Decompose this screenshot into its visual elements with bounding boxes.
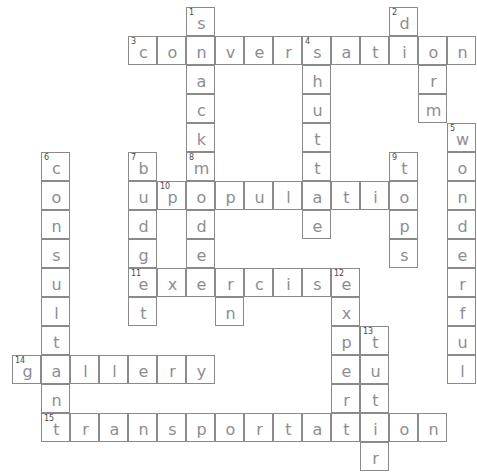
crossword-cell[interactable]: y bbox=[186, 355, 215, 384]
crossword-cell[interactable]: e bbox=[186, 268, 215, 297]
crossword-cell[interactable]: 2d bbox=[389, 7, 418, 36]
crossword-cell[interactable]: e bbox=[302, 210, 331, 239]
crossword-cell[interactable]: r bbox=[418, 65, 447, 94]
crossword-cell[interactable]: u bbox=[41, 268, 70, 297]
crossword-cell[interactable]: 14g bbox=[12, 355, 41, 384]
crossword-cell[interactable]: o bbox=[389, 413, 418, 442]
crossword-cell[interactable]: l bbox=[70, 355, 99, 384]
crossword-cell[interactable]: 6c bbox=[41, 152, 70, 181]
crossword-cell[interactable]: i bbox=[360, 413, 389, 442]
crossword-cell[interactable]: d bbox=[447, 210, 476, 239]
crossword-cell[interactable]: r bbox=[157, 355, 186, 384]
crossword-cell[interactable]: e bbox=[244, 36, 273, 65]
crossword-cell[interactable]: a bbox=[186, 65, 215, 94]
crossword-cell[interactable]: t bbox=[302, 152, 331, 181]
crossword-cell[interactable]: v bbox=[215, 36, 244, 65]
crossword-cell[interactable]: n bbox=[418, 413, 447, 442]
crossword-cell[interactable]: x bbox=[331, 297, 360, 326]
crossword-cell[interactable]: a bbox=[331, 36, 360, 65]
crossword-cell[interactable]: i bbox=[389, 36, 418, 65]
crossword-cell[interactable]: 8m bbox=[186, 152, 215, 181]
crossword-cell[interactable]: d bbox=[128, 210, 157, 239]
crossword-cell[interactable]: t bbox=[331, 181, 360, 210]
crossword-cell[interactable]: o bbox=[41, 181, 70, 210]
crossword-cell[interactable]: r bbox=[244, 413, 273, 442]
crossword-cell[interactable]: r bbox=[70, 413, 99, 442]
crossword-cell[interactable]: o bbox=[215, 413, 244, 442]
crossword-cell[interactable]: t bbox=[41, 326, 70, 355]
crossword-cell[interactable]: o bbox=[157, 36, 186, 65]
crossword-cell[interactable]: i bbox=[360, 181, 389, 210]
crossword-cell[interactable]: r bbox=[331, 384, 360, 413]
crossword-cell[interactable]: p bbox=[331, 326, 360, 355]
crossword-cell[interactable]: n bbox=[447, 181, 476, 210]
crossword-cell[interactable]: 10p bbox=[157, 181, 186, 210]
crossword-cell[interactable]: c bbox=[186, 94, 215, 123]
crossword-cell[interactable]: a bbox=[302, 413, 331, 442]
crossword-cell[interactable]: 3c bbox=[128, 36, 157, 65]
crossword-cell[interactable]: 1s bbox=[186, 7, 215, 36]
crossword-cell[interactable]: t bbox=[331, 413, 360, 442]
crossword-cell[interactable]: 7b bbox=[128, 152, 157, 181]
crossword-cell[interactable]: p bbox=[215, 181, 244, 210]
crossword-cell[interactable]: e bbox=[331, 355, 360, 384]
crossword-cell[interactable]: u bbox=[302, 94, 331, 123]
crossword-cell[interactable]: 13t bbox=[360, 326, 389, 355]
crossword-cell[interactable]: u bbox=[447, 326, 476, 355]
crossword-cell[interactable]: s bbox=[389, 239, 418, 268]
crossword-cell[interactable]: t bbox=[273, 413, 302, 442]
crossword-cell[interactable]: t bbox=[360, 36, 389, 65]
crossword-cell[interactable]: k bbox=[186, 123, 215, 152]
crossword-cell[interactable]: a bbox=[41, 355, 70, 384]
crossword-cell[interactable]: r bbox=[215, 268, 244, 297]
crossword-cell[interactable]: t bbox=[302, 123, 331, 152]
crossword-cell[interactable]: o bbox=[186, 181, 215, 210]
crossword-cell[interactable]: h bbox=[302, 65, 331, 94]
crossword-cell[interactable]: l bbox=[99, 355, 128, 384]
crossword-cell[interactable]: t bbox=[128, 297, 157, 326]
crossword-cell[interactable]: n bbox=[41, 384, 70, 413]
crossword-cell[interactable]: m bbox=[418, 94, 447, 123]
crossword-cell[interactable]: 5w bbox=[447, 123, 476, 152]
crossword-cell[interactable]: x bbox=[157, 268, 186, 297]
crossword-cell[interactable]: n bbox=[447, 36, 476, 65]
crossword-cell[interactable]: u bbox=[128, 181, 157, 210]
crossword-cell[interactable]: 9t bbox=[389, 152, 418, 181]
crossword-cell[interactable]: n bbox=[186, 36, 215, 65]
crossword-cell[interactable]: p bbox=[389, 210, 418, 239]
crossword-cell[interactable]: e bbox=[447, 239, 476, 268]
crossword-cell[interactable]: e bbox=[128, 355, 157, 384]
crossword-cell[interactable]: f bbox=[447, 297, 476, 326]
crossword-cell[interactable]: d bbox=[186, 210, 215, 239]
crossword-cell[interactable]: 11e bbox=[128, 268, 157, 297]
crossword-cell[interactable]: u bbox=[244, 181, 273, 210]
crossword-cell[interactable]: s bbox=[157, 413, 186, 442]
crossword-cell[interactable]: 12e bbox=[331, 268, 360, 297]
crossword-cell[interactable]: s bbox=[302, 268, 331, 297]
crossword-cell[interactable]: t bbox=[360, 384, 389, 413]
crossword-cell[interactable]: 4s bbox=[302, 36, 331, 65]
crossword-cell[interactable]: c bbox=[244, 268, 273, 297]
crossword-cell[interactable]: s bbox=[41, 239, 70, 268]
crossword-cell[interactable]: u bbox=[360, 355, 389, 384]
crossword-cell[interactable]: r bbox=[360, 442, 389, 471]
crossword-cell[interactable]: l bbox=[273, 181, 302, 210]
crossword-cell[interactable]: n bbox=[128, 413, 157, 442]
crossword-cell[interactable]: 15t bbox=[41, 413, 70, 442]
crossword-cell[interactable]: i bbox=[273, 268, 302, 297]
crossword-cell[interactable]: n bbox=[215, 297, 244, 326]
crossword-cell[interactable]: a bbox=[302, 181, 331, 210]
crossword-cell[interactable]: o bbox=[418, 36, 447, 65]
crossword-cell[interactable]: p bbox=[186, 413, 215, 442]
crossword-cell[interactable]: o bbox=[447, 152, 476, 181]
crossword-cell[interactable]: l bbox=[447, 355, 476, 384]
crossword-cell[interactable]: n bbox=[41, 210, 70, 239]
crossword-cell[interactable]: r bbox=[273, 36, 302, 65]
crossword-cell[interactable]: l bbox=[41, 297, 70, 326]
crossword-cell[interactable]: o bbox=[389, 181, 418, 210]
crossword-cell[interactable]: r bbox=[447, 268, 476, 297]
crossword-cell[interactable]: g bbox=[128, 239, 157, 268]
crossword-cell[interactable]: e bbox=[186, 239, 215, 268]
crossword-cell[interactable]: a bbox=[99, 413, 128, 442]
